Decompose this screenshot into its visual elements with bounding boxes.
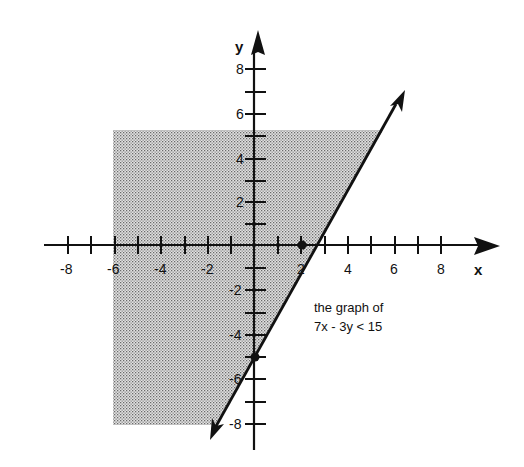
x-tick-label: 6 — [390, 261, 398, 277]
y-tick-label: 4 — [236, 151, 244, 167]
x-intercept-point — [298, 241, 307, 250]
x-tick-label: -2 — [201, 261, 214, 277]
x-tick-label: -8 — [60, 261, 73, 277]
x-tick-label: -6 — [107, 261, 120, 277]
y-tick-label: 6 — [236, 106, 244, 122]
y-tick-label: -8 — [229, 416, 242, 432]
y-tick-label: -2 — [229, 282, 242, 298]
y-intercept-point — [251, 353, 260, 362]
annotation-line-2: 7x - 3y < 15 — [314, 319, 382, 334]
y-tick-label: 8 — [236, 61, 244, 77]
y-axis-arrow-icon — [251, 30, 265, 55]
annotation-line-1: the graph of — [314, 300, 384, 315]
y-tick-label: -4 — [229, 327, 242, 343]
x-tick-label: 8 — [437, 261, 445, 277]
inequality-graph: -8 -6 -4 -2 2 4 6 8 x 8 6 4 2 -2 -4 -6 -… — [0, 0, 524, 467]
shaded-solution-region — [113, 130, 383, 425]
x-tick-label: 4 — [344, 261, 352, 277]
y-tick-label: 2 — [236, 194, 244, 210]
x-axis-label: x — [474, 261, 483, 278]
x-tick-label: -4 — [154, 261, 167, 277]
y-axis-label: y — [235, 38, 244, 55]
